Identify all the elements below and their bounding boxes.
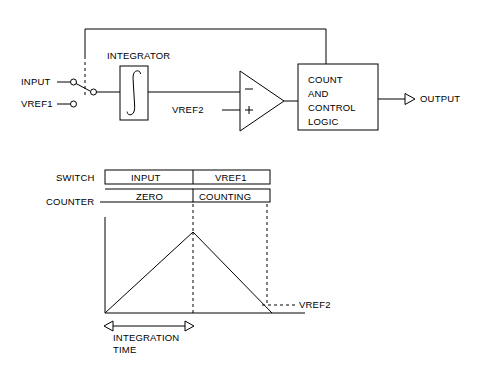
counter-cell-zero: ZERO: [136, 191, 163, 202]
counter-row-label: COUNTER: [46, 196, 94, 207]
integral-icon: [127, 71, 140, 115]
counter-cell-counting: COUNTING: [199, 191, 251, 202]
output-arrow-icon: [405, 94, 415, 105]
input-label: INPUT: [21, 76, 51, 87]
waveform-trace: [105, 232, 272, 313]
logic-block-line-2: CONTROL: [308, 102, 356, 113]
vref1-label: VREF1: [21, 98, 53, 109]
diagram-canvas: [0, 0, 487, 369]
integration-time-label-line1: INTEGRATION: [113, 332, 179, 343]
switch-cell-vref1: VREF1: [215, 172, 247, 183]
input-lead: [57, 79, 77, 85]
feedback-path: [85, 29, 326, 98]
comparator-plus-icon: [245, 106, 253, 114]
vref2-label: VREF2: [172, 104, 204, 115]
integration-time-arrow: [104, 321, 194, 331]
switch-blade: [76, 84, 97, 96]
output-label: OUTPUT: [420, 93, 460, 104]
vref1-lead: [57, 101, 77, 107]
integration-time-label-line2: TIME: [113, 344, 137, 355]
logic-block-line-3: LOGIC: [308, 116, 339, 127]
logic-block-line-1: AND: [308, 88, 329, 99]
switch-cell-input: INPUT: [131, 172, 161, 183]
logic-block-line-0: COUNT: [308, 74, 343, 85]
diagram-root: INPUT VREF1 INTEGRATOR VREF2 COUNT AND C…: [0, 0, 487, 369]
integrator-label: INTEGRATOR: [107, 50, 170, 61]
vref2-level-label: VREF2: [299, 299, 331, 310]
comparator-triangle: [240, 71, 284, 131]
switch-row-label: SWITCH: [56, 172, 95, 183]
